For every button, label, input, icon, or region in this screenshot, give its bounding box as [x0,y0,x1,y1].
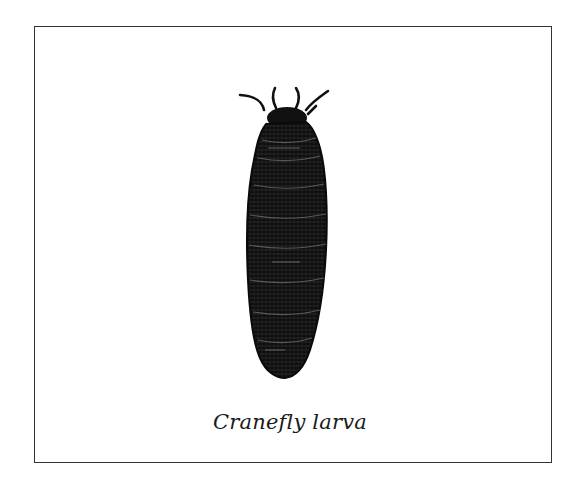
figure-caption: Cranefly larva [0,410,580,434]
